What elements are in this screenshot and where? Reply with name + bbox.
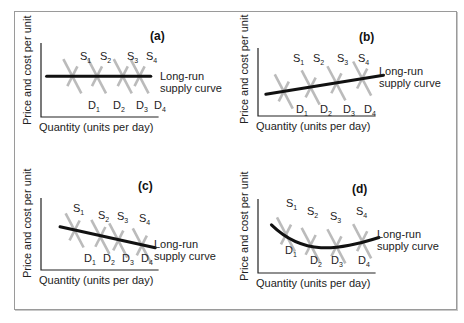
supply-label-4: S4 — [356, 205, 367, 219]
y-axis-label: Price and cost per unit — [238, 172, 250, 281]
supply-label-4: S4 — [139, 212, 150, 226]
supply-label-1: S1 — [293, 52, 304, 66]
demand-label-2: D2 — [113, 99, 125, 113]
supply-label-3: S3 — [337, 52, 348, 66]
supply-label-1: S1 — [286, 197, 297, 211]
supply-label-4: S4 — [358, 52, 369, 66]
x-axis-label: Quantity (units per day) — [39, 121, 153, 133]
chart-canvas: Price and cost per unitQuantity (units p… — [0, 0, 464, 323]
supply-label-1: S1 — [80, 50, 91, 64]
demand-label-4: D4 — [358, 254, 370, 268]
panel-id: (d) — [352, 182, 367, 196]
supply-label-3: S3 — [127, 50, 138, 64]
supply-label-2: S2 — [98, 209, 109, 223]
demand-label-2: D2 — [310, 254, 322, 268]
y-axis-label: Price and cost per unit — [21, 169, 33, 278]
panel-d: Price and cost per unitQuantity (units p… — [238, 172, 439, 289]
supply-label-4: S4 — [146, 50, 157, 64]
long-run-label-line-2: supply curve — [377, 240, 439, 252]
long-run-label-line-1: Long-run — [377, 228, 421, 240]
y-axis-label: Price and cost per unit — [21, 16, 33, 125]
supply-label-1: S1 — [73, 202, 84, 216]
demand-label-1: D1 — [296, 103, 308, 117]
supply-label-2: S2 — [100, 50, 111, 64]
demand-label-4: D4 — [141, 252, 153, 266]
demand-label-2: D2 — [103, 252, 115, 266]
long-run-label-line-2: supply curve — [160, 82, 222, 94]
panel-a: Price and cost per unitQuantity (units p… — [21, 16, 222, 133]
demand-label-4: D4 — [364, 103, 376, 117]
demand-label-3: D3 — [343, 103, 355, 117]
demand-label-2: D2 — [320, 103, 332, 117]
demand-label-1: D1 — [88, 99, 100, 113]
panel-id: (c) — [138, 179, 153, 193]
x-axis-label: Quantity (units per day) — [256, 277, 370, 289]
panel-c: Price and cost per unitQuantity (units p… — [21, 169, 216, 286]
x-axis-label: Quantity (units per day) — [256, 120, 370, 132]
long-run-label-line-2: supply curve — [379, 77, 441, 89]
long-run-label-line-1: Long-run — [154, 238, 198, 250]
supply-label-3: S3 — [330, 210, 341, 224]
demand-label-3: D3 — [136, 99, 148, 113]
panel-id: (a) — [150, 29, 165, 43]
long-run-label-line-1: Long-run — [160, 70, 204, 82]
panel-b: Price and cost per unitQuantity (units p… — [238, 15, 441, 132]
supply-label-2: S2 — [307, 205, 318, 219]
long-run-label-line-2: supply curve — [154, 250, 216, 262]
demand-label-1: D1 — [285, 244, 297, 258]
x-axis-label: Quantity (units per day) — [39, 274, 153, 286]
long-run-supply-curve — [60, 227, 155, 248]
demand-label-4: D4 — [154, 99, 166, 113]
supply-label-2: S2 — [313, 52, 324, 66]
demand-label-3: D3 — [122, 252, 134, 266]
long-run-label-line-1: Long-run — [379, 65, 423, 77]
demand-label-1: D1 — [84, 252, 96, 266]
panel-id: (b) — [359, 30, 374, 44]
y-axis-label: Price and cost per unit — [238, 15, 250, 124]
supply-label-3: S3 — [117, 210, 128, 224]
